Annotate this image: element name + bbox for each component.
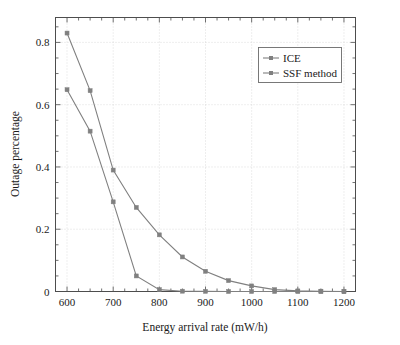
- chart-legend: ICESSF method: [259, 48, 342, 83]
- data-point-marker: [180, 289, 184, 293]
- data-point-marker: [111, 168, 115, 172]
- data-point-marker: [227, 290, 231, 294]
- x-tick-label: 1000: [241, 296, 264, 308]
- data-point-marker: [250, 284, 254, 288]
- data-point-marker: [88, 129, 92, 133]
- x-tick-label: 700: [105, 296, 122, 308]
- y-tick-label: 0.8: [36, 36, 50, 48]
- data-point-marker: [134, 205, 138, 209]
- data-point-marker: [204, 289, 208, 293]
- data-point-marker: [88, 89, 92, 93]
- y-axis-title: Outage percentage: [9, 111, 22, 197]
- x-tick-label: 1100: [287, 296, 309, 308]
- data-point-marker: [342, 290, 346, 294]
- x-tick-label: 900: [197, 296, 214, 308]
- data-point-marker: [227, 279, 231, 283]
- y-tick-label: 0.6: [36, 99, 50, 111]
- data-point-marker: [134, 274, 138, 278]
- data-point-marker: [65, 31, 69, 35]
- data-point-marker: [65, 88, 69, 92]
- x-tick-label: 1200: [333, 296, 356, 308]
- data-point-marker: [157, 233, 161, 237]
- x-tick-label: 800: [151, 296, 168, 308]
- legend-label: ICE: [283, 52, 301, 64]
- x-axis-title: Energy arrival rate (mW/h): [142, 321, 267, 334]
- y-tick-label: 0: [44, 286, 50, 298]
- data-point-marker: [250, 290, 254, 294]
- data-point-marker: [180, 255, 184, 259]
- legend-label: SSF method: [283, 67, 338, 79]
- data-point-marker: [204, 269, 208, 273]
- data-point-marker: [296, 290, 300, 294]
- chart-figure: 60070080090010001100120000.20.40.60.8 IC…: [0, 0, 400, 345]
- x-tick-label: 600: [59, 296, 76, 308]
- y-tick-label: 0.4: [36, 161, 50, 173]
- data-point-marker: [157, 288, 161, 292]
- y-tick-label: 0.2: [36, 223, 50, 235]
- data-point-marker: [111, 200, 115, 204]
- series-ssf-method: [65, 88, 346, 294]
- data-point-marker: [319, 290, 323, 294]
- data-point-marker: [273, 290, 277, 294]
- line-chart: 60070080090010001100120000.20.40.60.8 IC…: [0, 0, 400, 345]
